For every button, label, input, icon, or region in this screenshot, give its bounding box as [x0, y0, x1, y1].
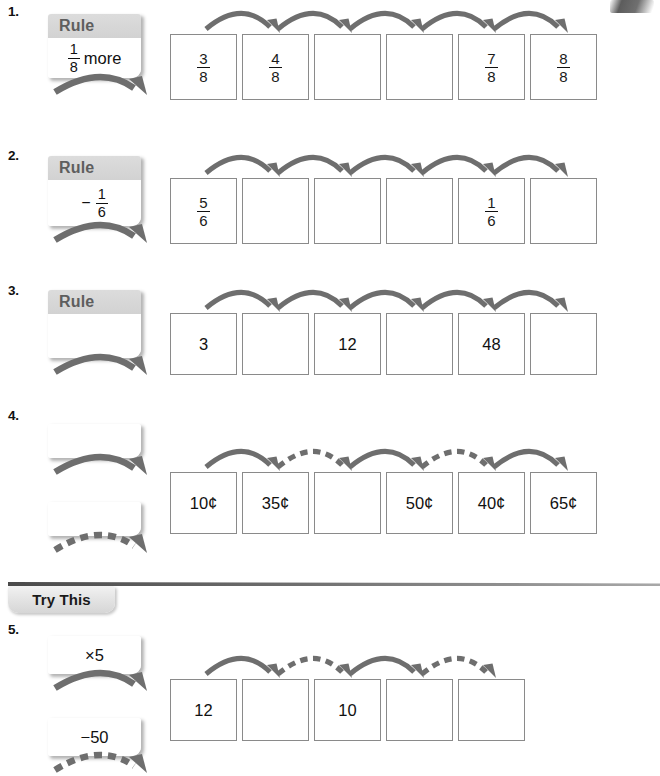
number-box[interactable] — [530, 313, 597, 375]
fraction: 38 — [197, 51, 209, 84]
arrow-solid-icon — [346, 286, 426, 313]
number-box[interactable] — [242, 178, 309, 244]
cell-value: 50¢ — [406, 495, 434, 512]
number-box[interactable] — [386, 178, 453, 244]
fraction: 78 — [485, 51, 497, 84]
number-box[interactable]: 10 — [314, 679, 381, 741]
rule-word: more — [84, 49, 122, 68]
rule-box[interactable]: ×5 — [48, 636, 141, 674]
minus-sign: − — [81, 194, 90, 212]
number-box[interactable]: 56 — [170, 178, 237, 244]
number-box[interactable] — [386, 34, 453, 100]
cell-value: 40¢ — [478, 495, 506, 512]
arrow-solid-icon — [346, 151, 426, 178]
number-box[interactable]: 12 — [314, 313, 381, 375]
cell-value: 10 — [338, 702, 356, 719]
rule-box-body[interactable] — [48, 314, 141, 358]
problem-number: 1. — [8, 4, 19, 19]
rule-expression: −16 — [81, 187, 107, 219]
number-box[interactable]: 35¢ — [242, 472, 309, 534]
number-box[interactable] — [530, 178, 597, 244]
number-box[interactable]: 12 — [170, 679, 237, 741]
fraction-denominator: 6 — [96, 204, 108, 220]
fraction-numerator: 1 — [68, 42, 80, 59]
rule-box-body[interactable]: −16 — [48, 180, 141, 226]
rule-label: Rule — [59, 293, 94, 311]
arrow-solid-icon — [490, 7, 570, 34]
rule-box[interactable] — [48, 502, 141, 536]
rule-box-header: Rule — [48, 14, 141, 38]
arrow-solid-icon — [202, 151, 282, 178]
number-box[interactable] — [458, 679, 525, 741]
fraction-numerator: 8 — [557, 51, 569, 68]
number-box[interactable]: 38 — [170, 34, 237, 100]
arrow-dashed-icon — [274, 652, 354, 679]
fraction: 88 — [557, 51, 569, 84]
number-box[interactable] — [386, 313, 453, 375]
rule-box-body[interactable] — [48, 502, 141, 536]
fraction-numerator: 1 — [485, 195, 497, 212]
arrow-solid-icon — [202, 652, 282, 679]
rule-box-body[interactable]: ×5 — [48, 636, 141, 674]
arrow-dashed-icon — [274, 445, 354, 472]
rule-label: Rule — [59, 17, 94, 35]
fraction-numerator: 5 — [197, 195, 209, 212]
arrow-solid-icon — [490, 445, 570, 472]
rule-box[interactable]: Rule18more — [48, 14, 141, 78]
fraction-denominator: 8 — [269, 68, 281, 84]
number-box[interactable]: 88 — [530, 34, 597, 100]
number-box[interactable] — [314, 472, 381, 534]
fraction: 48 — [269, 51, 281, 84]
arrow-solid-icon — [346, 652, 426, 679]
arrow-solid-icon — [202, 286, 282, 313]
rule-box-body[interactable]: −50 — [48, 718, 141, 756]
problem-number: 3. — [8, 283, 19, 298]
arrow-solid-icon — [490, 151, 570, 178]
arrow-solid-icon — [418, 151, 498, 178]
number-box[interactable] — [242, 313, 309, 375]
arrow-solid-icon — [418, 7, 498, 34]
number-box[interactable]: 78 — [458, 34, 525, 100]
rule-box[interactable]: Rule — [48, 290, 141, 358]
fraction-denominator: 6 — [485, 212, 497, 228]
arrow-solid-icon — [346, 445, 426, 472]
rule-box[interactable] — [48, 424, 141, 458]
cell-value: 10¢ — [190, 495, 218, 512]
rule-label: Rule — [59, 159, 94, 177]
fraction-denominator: 6 — [197, 212, 209, 228]
cell-value: 48 — [482, 336, 500, 353]
rule-box[interactable]: −50 — [48, 718, 141, 756]
number-box[interactable]: 48 — [458, 313, 525, 375]
rule-box-header: Rule — [48, 156, 141, 180]
problem-number: 4. — [8, 408, 19, 423]
rule-expression: 18more — [68, 42, 122, 74]
fraction-denominator: 8 — [197, 68, 209, 84]
number-box[interactable] — [386, 679, 453, 741]
arrow-solid-icon — [418, 286, 498, 313]
fraction-numerator: 7 — [485, 51, 497, 68]
number-box[interactable]: 48 — [242, 34, 309, 100]
rule-box[interactable]: Rule−16 — [48, 156, 141, 226]
rule-expression: −50 — [81, 728, 109, 747]
cell-value: 3 — [199, 336, 208, 353]
number-box[interactable] — [314, 178, 381, 244]
number-box[interactable]: 40¢ — [458, 472, 525, 534]
problem-number: 2. — [8, 148, 19, 163]
arrow-solid-icon — [202, 7, 282, 34]
fraction-numerator: 1 — [96, 187, 108, 204]
fraction-denominator: 8 — [485, 68, 497, 84]
rule-box-body[interactable]: 18more — [48, 38, 141, 78]
rule-box-body[interactable] — [48, 424, 141, 458]
number-box[interactable]: 10¢ — [170, 472, 237, 534]
number-box[interactable]: 65¢ — [530, 472, 597, 534]
number-box[interactable] — [314, 34, 381, 100]
cell-value: 65¢ — [550, 495, 578, 512]
worksheet-page: 1.Rule18more 38487888 2.Rule−16 5616 — [0, 0, 660, 776]
number-box[interactable] — [242, 679, 309, 741]
number-box[interactable]: 3 — [170, 313, 237, 375]
fraction-denominator: 8 — [557, 68, 569, 84]
number-box[interactable]: 50¢ — [386, 472, 453, 534]
fraction: 16 — [96, 187, 108, 219]
number-box[interactable]: 16 — [458, 178, 525, 244]
arrow-dashed-icon — [418, 652, 498, 679]
